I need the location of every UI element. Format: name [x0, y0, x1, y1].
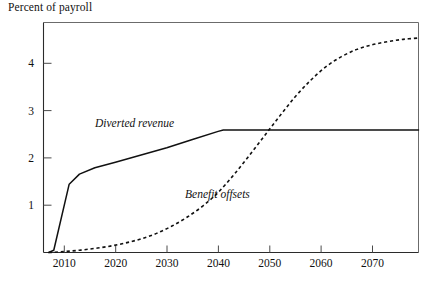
- xtick-label-2020: 2020: [96, 257, 136, 269]
- xtick-label-2060: 2060: [301, 257, 341, 269]
- ytick-label-4: 4: [18, 57, 34, 69]
- chart-figure: Percent of payroll 1 2 3 4: [0, 0, 434, 288]
- xtick-label-2030: 2030: [147, 257, 187, 269]
- ytick-label-1: 1: [18, 199, 34, 211]
- y-tick-marks: [44, 63, 52, 205]
- ytick-label-3: 3: [18, 105, 34, 117]
- xtick-label-2010: 2010: [44, 257, 84, 269]
- ytick-label-2: 2: [18, 152, 34, 164]
- series-line-benefit-offsets: [49, 38, 419, 253]
- xtick-label-2040: 2040: [198, 257, 238, 269]
- xtick-label-2070: 2070: [353, 257, 393, 269]
- xtick-label-2050: 2050: [250, 257, 290, 269]
- series-annotation-diverted-revenue: Diverted revenue: [95, 117, 174, 129]
- series-annotation-benefit-offsets: Benefit offsets: [185, 188, 250, 200]
- plot-area: [0, 0, 434, 288]
